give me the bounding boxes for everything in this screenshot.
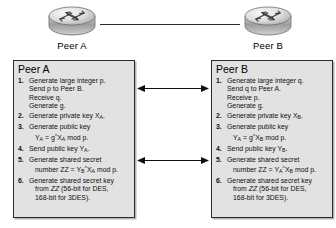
step-text: 168-bit for 3DES). (29, 194, 131, 202)
step-number: 6. (216, 177, 222, 185)
node-label-peer-b: Peer B (236, 40, 300, 51)
step-formula: YA = g^XB mod p. (227, 132, 329, 143)
step-text: Generate large integer q. (227, 77, 329, 85)
list-item: 2. Generate private key XA. (18, 112, 131, 121)
node-peer-a[interactable]: Peer A (40, 1, 104, 51)
step-text: Generate g. (29, 102, 131, 110)
list-item: 4. Send public key YA. (18, 145, 131, 154)
list-item: 1. Generate large integer p. Send p to P… (18, 77, 131, 111)
step-text: Generate public key (29, 123, 131, 131)
step-number: 1. (216, 77, 222, 85)
list-item: 2. Generate private key XB. (216, 112, 329, 121)
peer-a-title: Peer A (14, 61, 134, 77)
step-number: 3. (18, 123, 24, 131)
step-number: 4. (18, 145, 24, 153)
step-text: Generate g. (227, 102, 329, 110)
list-item: 5. Generate shared secret number ZZ = YB… (18, 156, 131, 176)
exchange-arrow-bottom (137, 156, 209, 165)
step-formula: number ZZ = YB^XA mod p. (29, 164, 131, 175)
list-item: 3. Generate public key YA = g^XA mod p. (18, 123, 131, 143)
step-number: 5. (18, 156, 24, 164)
step-formula: YA = g^XA mod p. (29, 132, 131, 143)
step-number: 1. (18, 77, 24, 85)
step-text: Send public key YB. (227, 145, 329, 154)
step-text: Send public key YA. (29, 145, 131, 154)
network-link-line (100, 24, 240, 25)
list-item: 3. Generate public key YA = g^XB mod p. (216, 123, 329, 143)
step-formula: number ZZ = YA^XB mod p. (227, 164, 329, 175)
exchange-arrow-top (137, 84, 209, 93)
list-item: 6. Generate shared secret key from ZZ (5… (18, 177, 131, 202)
step-number: 5. (216, 156, 222, 164)
peer-b-title: Peer B (212, 61, 332, 77)
step-text: Generate shared secret (227, 156, 329, 164)
step-text: Send q to Peer A. (227, 85, 329, 93)
step-text: Receive q. (29, 94, 131, 102)
step-text: from ZZ (56-bit for DES, (227, 185, 329, 193)
list-item: 4. Send public key YB. (216, 145, 329, 154)
peer-b-step-list: 1. Generate large integer q. Send q to P… (212, 77, 332, 202)
network-topology: Peer A Peer B (0, 0, 336, 56)
step-text: Generate shared secret (29, 156, 131, 164)
peer-b-panel: Peer B 1. Generate large integer q. Send… (211, 60, 333, 218)
step-text: Receive p. (227, 94, 329, 102)
step-text: Generate private key XB. (227, 112, 329, 121)
step-text: Generate shared secret key (29, 177, 131, 185)
step-text: Generate large integer p. (29, 77, 131, 85)
node-label-peer-a: Peer A (40, 40, 104, 51)
step-text: from ZZ (56-bit for DES, (29, 185, 131, 193)
list-item: 5. Generate shared secret number ZZ = YA… (216, 156, 329, 176)
step-text: 168-bit for 3DES). (227, 194, 329, 202)
list-item: 6. Generate shared secret key from ZZ (5… (216, 177, 329, 202)
node-peer-b[interactable]: Peer B (236, 1, 300, 51)
step-number: 4. (216, 145, 222, 153)
step-number: 6. (18, 177, 24, 185)
peer-a-step-list: 1. Generate large integer p. Send p to P… (14, 77, 134, 202)
step-text: Generate private key XA. (29, 112, 131, 121)
step-number: 2. (18, 112, 24, 120)
step-text: Generate shared secret key (227, 177, 329, 185)
step-text: Send p to Peer B. (29, 85, 131, 93)
list-item: 1. Generate large integer q. Send q to P… (216, 77, 329, 111)
step-number: 2. (216, 112, 222, 120)
peer-a-panel: Peer A 1. Generate large integer p. Send… (13, 60, 135, 218)
step-text: Generate public key (227, 123, 329, 131)
router-icon (242, 1, 294, 39)
router-icon (46, 1, 98, 39)
step-number: 3. (216, 123, 222, 131)
